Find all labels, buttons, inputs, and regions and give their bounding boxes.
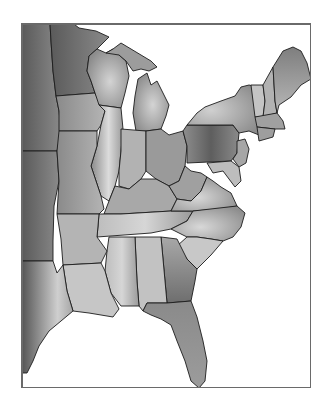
state-maine <box>273 47 311 113</box>
eastern-us-shaded-map <box>22 24 311 388</box>
region-plains <box>22 151 59 261</box>
state-connecticut <box>257 127 275 141</box>
state-florida <box>143 301 207 388</box>
state-michigan-lp <box>133 73 169 131</box>
map-figure <box>0 0 333 416</box>
state-texas <box>22 261 73 373</box>
map-frame <box>21 23 311 388</box>
state-alabama <box>135 237 167 311</box>
state-pennsylvania <box>183 125 239 163</box>
